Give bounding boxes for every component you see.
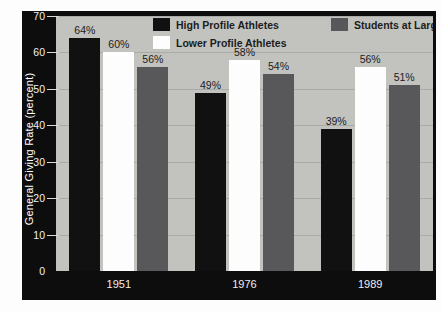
bar[interactable] — [137, 67, 168, 271]
y-axis-tick — [47, 125, 59, 126]
y-axis-label: 70 — [1, 11, 45, 22]
bar[interactable] — [355, 67, 386, 271]
y-axis-title: General Giving Rate (percent) — [23, 54, 35, 244]
bar[interactable] — [103, 52, 134, 271]
bar[interactable] — [195, 93, 226, 272]
bar[interactable] — [263, 74, 294, 271]
bar-value-label: 54% — [259, 60, 298, 72]
bar[interactable] — [69, 38, 100, 271]
legend-label: Lower Profile Athletes — [176, 37, 286, 49]
y-axis-label: 0 — [1, 266, 45, 277]
bar-value-label: 51% — [385, 71, 424, 83]
x-axis-label: 1989 — [325, 278, 415, 290]
legend-label: High Profile Athletes — [176, 19, 279, 31]
bar[interactable] — [229, 60, 260, 271]
bar-group: 64%60%56% — [69, 16, 168, 271]
bar-group: 39%56%51% — [321, 16, 420, 271]
y-axis-tick — [47, 162, 59, 163]
chart-legend: High Profile AthletesStudents at LargeLo… — [153, 18, 433, 54]
bar-value-label: 56% — [133, 53, 172, 65]
bar-value-label: 56% — [351, 53, 390, 65]
y-axis-tick — [47, 52, 59, 53]
plot-area: 64%60%56%49%58%54%39%56%51% High Profile… — [56, 16, 433, 271]
x-axis: 195119761989 — [56, 271, 433, 300]
bar[interactable] — [389, 85, 420, 271]
legend-row: High Profile AthletesStudents at Large — [153, 18, 433, 33]
legend-item[interactable]: Students at Large — [331, 18, 433, 31]
y-axis-tick — [47, 16, 59, 17]
y-axis-tick — [47, 235, 59, 236]
legend-swatch-icon — [331, 18, 348, 31]
bar-value-label: 64% — [65, 24, 104, 36]
bar-value-label: 49% — [191, 79, 230, 91]
x-axis-label: 1951 — [74, 278, 164, 290]
bar-group: 49%58%54% — [195, 16, 294, 271]
chart-figure: 64%60%56%49%58%54%39%56%51% High Profile… — [0, 0, 442, 313]
bar-value-label: 39% — [317, 115, 356, 127]
y-axis-tick — [47, 198, 59, 199]
bar-value-label: 60% — [99, 38, 138, 50]
bar[interactable] — [321, 129, 352, 271]
legend-item[interactable]: High Profile Athletes — [153, 18, 279, 31]
legend-label: Students at Large — [354, 19, 433, 31]
legend-row: Lower Profile Athletes — [153, 36, 433, 51]
y-axis-tick — [47, 89, 59, 90]
legend-swatch-icon — [153, 18, 170, 31]
x-axis-label: 1976 — [200, 278, 290, 290]
legend-item[interactable]: Lower Profile Athletes — [153, 36, 286, 49]
legend-swatch-icon — [153, 36, 170, 49]
